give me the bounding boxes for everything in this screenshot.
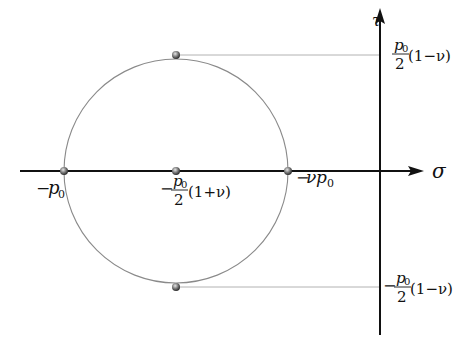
- svg-text:(1−ν): (1−ν): [408, 47, 451, 65]
- sigma-axis-label: σ: [432, 159, 447, 183]
- svg-text:p: p: [316, 167, 327, 187]
- svg-text:−: −: [383, 276, 396, 295]
- tau-axis-label: τ: [372, 11, 382, 30]
- svg-text:−: −: [160, 179, 173, 198]
- svg-text:ν: ν: [306, 167, 316, 187]
- svg-text:0: 0: [181, 179, 187, 190]
- svg-text:0: 0: [58, 188, 65, 201]
- svg-text:(1+ν): (1+ν): [188, 183, 231, 201]
- point-bottom: [172, 283, 180, 291]
- left-point-label: − p 0: [36, 177, 65, 201]
- point-right: [284, 167, 292, 175]
- tau-bottom-label: − p 0 2 (1−ν): [383, 269, 453, 306]
- point-left: [60, 167, 68, 175]
- svg-text:(1−ν): (1−ν): [410, 280, 453, 298]
- mohr-circle-diagram: σ τ − p 0 − p 0 2 (1+ν) − ν p 0 p 0 2 (1…: [0, 0, 466, 352]
- tau-top-label: p 0 2 (1−ν): [392, 36, 451, 73]
- point-top: [172, 51, 180, 59]
- svg-text:0: 0: [327, 177, 334, 190]
- svg-text:2: 2: [395, 55, 405, 73]
- svg-text:2: 2: [174, 191, 184, 209]
- center-point-label: − p 0 2 (1+ν): [160, 172, 231, 209]
- svg-text:2: 2: [397, 288, 407, 306]
